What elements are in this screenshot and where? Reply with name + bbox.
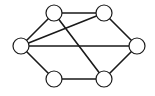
node-left: [13, 38, 29, 54]
edge-left-top-right: [21, 13, 104, 46]
node-right: [129, 38, 145, 54]
graph-diagram: [0, 0, 155, 96]
node-bottom-right: [96, 71, 112, 87]
node-top-left: [46, 5, 62, 21]
edge-layer: [21, 13, 137, 79]
node-bottom-left: [46, 71, 62, 87]
node-top-right: [96, 5, 112, 21]
